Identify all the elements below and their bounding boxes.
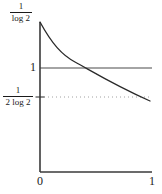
fraction-denominator: log 2 (10, 14, 32, 24)
fraction-numerator: 1 (3, 86, 32, 96)
decay-curve (40, 22, 150, 101)
y-axis-one-label: 1 (22, 61, 36, 73)
fraction-numerator: 1 (10, 2, 32, 12)
fraction-one-over-log2: 1 log 2 (10, 2, 32, 23)
x-axis-one-label: 1 (145, 175, 159, 187)
math-figure: 1 log 2 1 1 2 log 2 0 1 (0, 0, 162, 194)
fraction-denominator: 2 log 2 (3, 98, 32, 108)
y-axis-max-label: 1 log 2 (4, 2, 38, 23)
y-axis-half-label: 1 2 log 2 (0, 86, 36, 107)
x-axis-zero-label: 0 (33, 175, 47, 187)
fraction-one-over-2log2: 1 2 log 2 (3, 86, 32, 107)
